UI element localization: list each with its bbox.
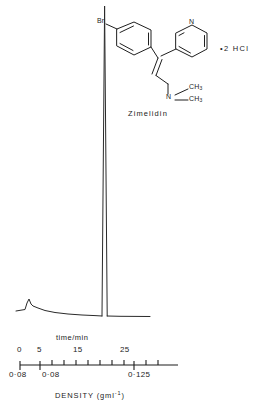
time-tick-label-25: 25 — [120, 345, 130, 354]
compound-name-label: Zimelidin — [128, 109, 168, 118]
time-tick-label-5: 5 — [37, 345, 42, 354]
density-axis-caption-text: DENSITY (gml — [55, 391, 115, 400]
amine-nitrogen-label: N — [166, 93, 171, 100]
pyridine-nitrogen-label: N — [189, 18, 194, 25]
salt-stoichiometry-label: •2 HCl — [220, 44, 249, 53]
pyridine-ring — [176, 25, 207, 57]
methyl-group-bottom: CH3 — [189, 95, 203, 103]
methyl-bottom-label: CH — [189, 95, 200, 102]
time-axis-caption: time/min — [56, 333, 88, 342]
density-axis-caption: DENSITY (gml-1) — [55, 390, 125, 400]
density-tick-label-mid: 0·08 — [42, 370, 60, 379]
bond-aryl-to-vinyl — [151, 47, 158, 58]
methyl-top-subscript: 3 — [200, 85, 203, 91]
bond-pyridyl-to-vinyl — [161, 49, 176, 56]
density-tick-label-left: 0·08 — [9, 370, 27, 379]
methyl-bottom-subscript: 3 — [200, 97, 203, 103]
methyl-group-top: CH3 — [189, 83, 203, 91]
methyl-top-label: CH — [189, 83, 200, 90]
time-tick-label-15: 15 — [73, 345, 83, 354]
figure-panel: Br N N CH3 CH3 •2 HCl Zimelidin time/min… — [0, 0, 269, 416]
bond-n-to-methyl-top — [175, 89, 188, 95]
density-tick-label-right: 0·125 — [128, 370, 150, 379]
density-axis-caption-close: ) — [122, 391, 125, 400]
bond-vinyl-to-ch2 — [156, 76, 168, 85]
density-time-ruler — [20, 360, 178, 370]
bromophenyl-ring — [106, 22, 151, 55]
density-axis-exponent: -1 — [115, 390, 122, 396]
time-tick-label-0: 0 — [17, 345, 22, 354]
bromine-atom-label: Br — [97, 17, 104, 24]
